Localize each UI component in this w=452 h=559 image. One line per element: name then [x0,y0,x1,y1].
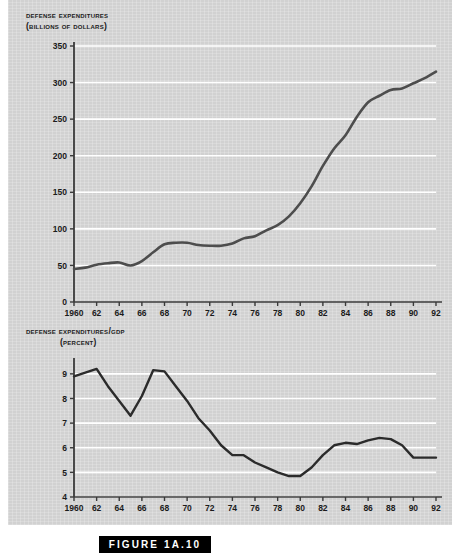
x-tick-label: 86 [363,503,373,513]
x-tick-label: 84 [341,503,351,513]
x-tick-label: 64 [115,503,125,513]
x-tick-label: 78 [273,503,283,513]
y-tick-label: 5 [62,468,67,478]
x-tick-label: 76 [250,503,260,513]
x-tick-label: 74 [228,503,238,513]
figure-caption-text: FIGURE 1A.10 [109,539,201,550]
x-tick-label: 70 [182,503,192,513]
x-tick-label: 72 [205,503,215,513]
y-tick-label: 6 [62,443,67,453]
x-tick-label: 90 [409,503,419,513]
x-tick-label: 82 [318,503,328,513]
figure-panel: Defense expenditures (billions of dollar… [8,0,452,525]
x-tick-label: 62 [92,503,102,513]
x-tick-label: 68 [160,503,170,513]
y-tick-label: 4 [62,492,67,502]
x-tick-label: 1960 [65,503,84,513]
x-tick-label: 92 [431,503,441,513]
x-tick-label: 88 [386,503,396,513]
x-tick-label: 80 [296,503,306,513]
figure-caption-bar: FIGURE 1A.10 [99,536,211,553]
y-tick-label: 7 [62,418,67,428]
bottom-chart-plot: 4567891960626466687072747678808284868890… [8,0,452,525]
y-tick-label: 9 [62,369,67,379]
y-tick-label: 8 [62,394,67,404]
x-tick-label: 66 [137,503,147,513]
